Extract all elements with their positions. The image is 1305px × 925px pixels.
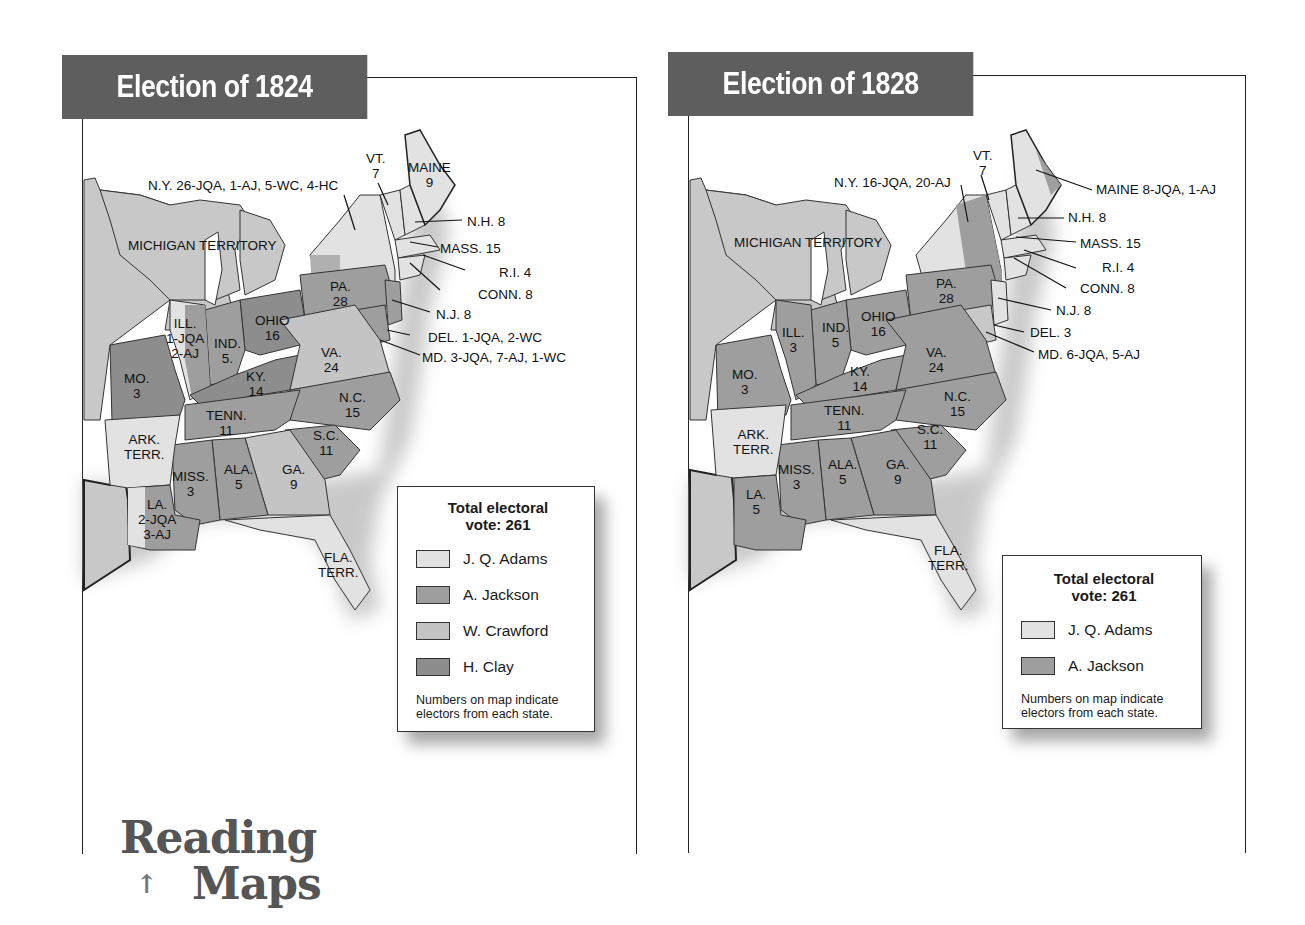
label-sc: S.C.11 [313, 428, 339, 458]
label-pa: PA.28 [330, 279, 351, 309]
label-nc: N.C.15 [944, 389, 971, 419]
maps-text: Maps [192, 861, 321, 907]
label-va: VA.24 [321, 345, 342, 375]
swatch-adams [1021, 621, 1055, 639]
legend-item-jackson: A. Jackson [1021, 648, 1187, 684]
label-ky: KY.14 [850, 364, 870, 394]
swatch-jackson [1021, 657, 1055, 675]
label-del: DEL. 1-JQA, 2-WC [428, 330, 542, 345]
reading-text: Reading [120, 815, 321, 861]
label-maine: MAINE 8-JQA, 1-AJ [1096, 182, 1216, 197]
reading-maps-heading: Reading ↑ Maps [120, 815, 321, 907]
map-1824 [0, 0, 650, 925]
label-md: MD. 3-JQA, 7-AJ, 1-WC [422, 350, 566, 365]
legend-item-clay: H. Clay [416, 649, 580, 685]
label-ala: ALA.5 [224, 462, 253, 492]
label-ark: ARK.TERR. [124, 432, 165, 462]
legend-1828: Total electoralvote: 261 J. Q. Adams A. … [1002, 555, 1202, 729]
legend-note: Numbers on map indicateelectors from eac… [416, 693, 580, 721]
label-nc: N.C.15 [339, 390, 366, 420]
legend-item-adams: J. Q. Adams [416, 541, 580, 577]
label-la: LA.5 [746, 487, 766, 517]
label-pa: PA.28 [936, 276, 957, 306]
label-conn: CONN. 8 [478, 287, 533, 302]
label-ala: ALA.5 [828, 457, 857, 487]
label-ohio: OHIO16 [255, 313, 290, 343]
label-vt: VT.7 [973, 148, 993, 178]
label-ind: IND.5. [214, 336, 241, 366]
label-conn: CONN. 8 [1080, 281, 1135, 296]
label-ri: R.I. 4 [499, 265, 531, 280]
label-ri: R.I. 4 [1102, 260, 1134, 275]
swatch-jackson [416, 586, 450, 604]
label-michigan: MICHIGAN TERRITORY [734, 235, 883, 250]
label-mass: MASS. 15 [1080, 236, 1141, 251]
legend-title: Total electoralvote: 261 [416, 499, 580, 533]
label-fla: FLA.TERR. [318, 550, 359, 580]
label-fla: FLA.TERR. [928, 543, 969, 573]
label-ohio: OHIO16 [861, 309, 896, 339]
label-md: MD. 6-JQA, 5-AJ [1038, 347, 1140, 362]
label-ga: GA.9 [282, 462, 305, 492]
label-la: LA.2-JQA3-AJ [138, 497, 176, 542]
legend-item-adams: J. Q. Adams [1021, 612, 1187, 648]
swatch-crawford [416, 622, 450, 640]
label-michigan: MICHIGAN TERRITORY [128, 238, 277, 253]
label-ga: GA.9 [886, 457, 909, 487]
legend-title: Total electoralvote: 261 [1021, 570, 1187, 604]
label-nj: N.J. 8 [1056, 303, 1091, 318]
label-ill: ILL.3 [782, 325, 805, 355]
label-ky: KY.14 [246, 369, 266, 399]
label-tenn: TENN.11 [824, 403, 865, 433]
label-ny: N.Y. 26-JQA, 1-AJ, 5-WC, 4-HC [148, 178, 338, 193]
label-ark: ARK.TERR. [733, 427, 774, 457]
label-mo: MO.3 [732, 367, 758, 397]
label-miss: MISS.3 [172, 469, 209, 499]
label-ind: IND.5 [822, 320, 849, 350]
label-ny: N.Y. 16-JQA, 20-AJ [834, 175, 951, 190]
label-mass: MASS. 15 [440, 241, 501, 256]
legend-item-jackson: A. Jackson [416, 577, 580, 613]
label-vt: VT.7 [366, 151, 386, 181]
label-miss: MISS.3 [778, 462, 815, 492]
up-arrow-icon: ↑ [120, 861, 192, 907]
swatch-adams [416, 550, 450, 568]
map-panel-1828: Election of 1828 [606, 0, 1305, 925]
label-mo: MO.3 [124, 371, 150, 401]
legend-1824: Total electoralvote: 261 J. Q. Adams A. … [397, 486, 595, 732]
legend-item-crawford: W. Crawford [416, 613, 580, 649]
legend-note: Numbers on map indicateelectors from eac… [1021, 692, 1187, 720]
label-del: DEL. 3 [1030, 325, 1071, 340]
label-tenn: TENN.11 [206, 408, 247, 438]
label-nh: N.H. 8 [467, 214, 505, 229]
label-nj: N.J. 8 [436, 307, 471, 322]
map-1828 [606, 0, 1305, 925]
label-ill: ILL.1-JQA2-AJ [166, 316, 204, 361]
swatch-clay [416, 658, 450, 676]
label-maine: MAINE9 [408, 160, 451, 190]
label-va: VA.24 [926, 345, 947, 375]
label-sc: S.C.11 [917, 422, 943, 452]
map-panel-1824: Election of 1824 [0, 0, 650, 925]
label-nh: N.H. 8 [1068, 210, 1106, 225]
